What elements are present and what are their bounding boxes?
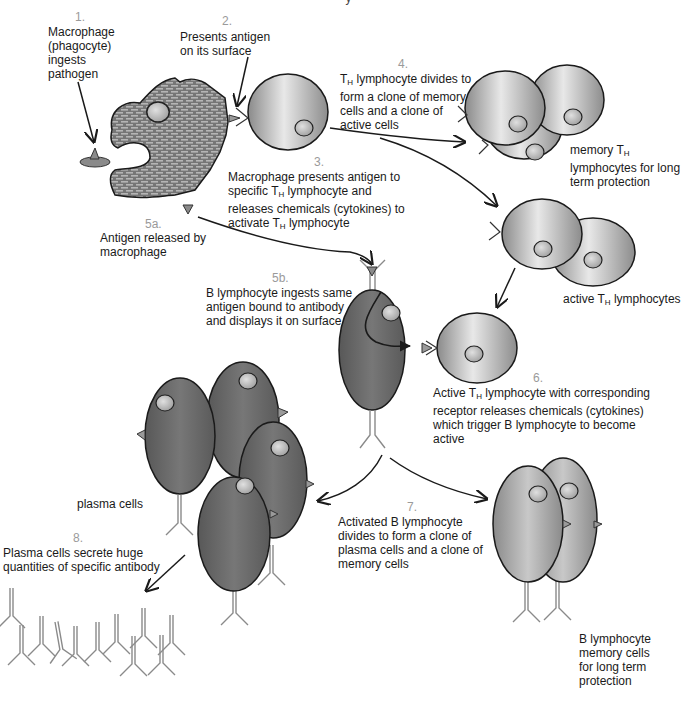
secreted-antibodies <box>0 588 185 676</box>
step-1-number: 1. <box>75 10 85 24</box>
arrow-step7-memory <box>390 458 487 499</box>
step-2-number: 2. <box>222 14 232 28</box>
free-antigen-icon <box>183 205 193 214</box>
presented-antigen-icon <box>229 115 240 122</box>
step-6-number: 6. <box>533 371 543 385</box>
b-memory-cells <box>493 458 602 622</box>
arrow-step6 <box>497 268 515 307</box>
arrow-step2 <box>237 57 248 106</box>
step-5b-text: B lymphocyte ingests same antigen bound … <box>206 286 352 328</box>
plasma-cells-label: plasma cells <box>77 497 143 511</box>
step-5a-text: Antigen released by macrophage <box>100 231 206 259</box>
step-5b-number: 5b. <box>272 271 289 285</box>
step-4-number: 4. <box>398 57 408 71</box>
step-8-number: 8. <box>73 531 83 545</box>
step-7-text: Activated B lymphocyte divides to form a… <box>338 515 483 571</box>
step-6-text: Active TH lymphocyte with corresponding … <box>433 386 693 446</box>
step-3-number: 3. <box>314 155 324 169</box>
active-th-cells <box>489 199 635 286</box>
b-memory-label: B lymphocyte memory cells for long term … <box>579 632 651 688</box>
step-3-text: Macrophage presents antigen to specific … <box>228 170 438 234</box>
step-8-text: Plasma cells secrete huge quantities of … <box>3 546 160 574</box>
macrophage-nucleus <box>147 102 170 122</box>
step-7-number: 7. <box>407 500 417 514</box>
plasma-cells <box>137 362 314 625</box>
active-th-label: active TH lymphocytes <box>563 292 697 310</box>
pathogen <box>80 148 110 167</box>
arrow-step1 <box>78 82 94 142</box>
step-2-text: Presents antigen on its surface <box>180 30 270 58</box>
step-1-text: Macrophage (phagocyte) ingests pathogen <box>48 25 115 81</box>
th-lymphocyte <box>236 74 328 150</box>
b-lymphocyte <box>339 260 432 448</box>
memory-th-label: memory TH lymphocytes for long term prot… <box>570 143 697 189</box>
macrophage <box>110 78 240 197</box>
step-5a-number: 5a. <box>145 217 162 231</box>
arrow-step7-plasma <box>318 455 382 501</box>
step-4-text: TH lymphocyte divides to form a clone of… <box>340 72 490 132</box>
active-th-cell-step6 <box>426 313 517 383</box>
